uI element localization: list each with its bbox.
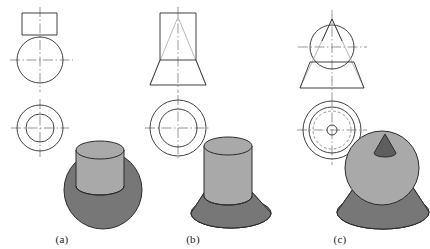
caption-c: (c) bbox=[333, 233, 346, 245]
part-a-solid-cylinder-top bbox=[76, 141, 124, 159]
orthographic-projection-drawing bbox=[0, 0, 430, 249]
part-b-solid-cylinder-top bbox=[204, 137, 252, 155]
caption-b: (b) bbox=[186, 233, 200, 245]
caption-a: (a) bbox=[55, 233, 68, 245]
figure-root: (a) (b) (c) bbox=[0, 0, 430, 249]
